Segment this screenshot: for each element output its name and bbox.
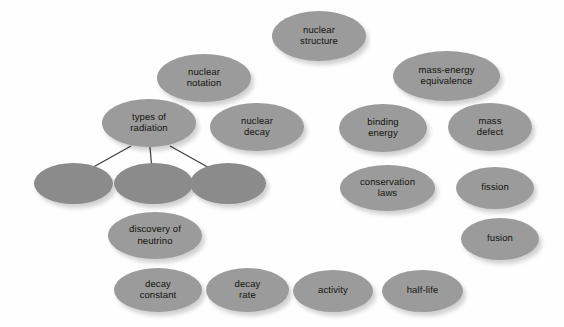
node-label: decay constant	[134, 279, 183, 302]
node-half-life[interactable]: half-life	[382, 270, 463, 312]
node-label: conservation laws	[354, 177, 421, 200]
node-mass-energy-equivalence[interactable]: mass-energy equivalence	[393, 51, 500, 101]
node-radiation-type-3[interactable]	[190, 163, 266, 204]
node-decay-constant[interactable]: decay constant	[114, 268, 202, 312]
node-label: nuclear notation	[181, 67, 228, 90]
node-label: activity	[312, 285, 354, 297]
node-fusion[interactable]: fusion	[461, 218, 539, 260]
node-mass-defect[interactable]: mass defect	[448, 103, 532, 151]
node-label: discovery of neutrino	[123, 224, 187, 247]
node-fission[interactable]: fission	[456, 167, 534, 209]
node-label: nuclear decay	[235, 116, 279, 139]
node-nuclear-decay[interactable]: nuclear decay	[210, 103, 304, 151]
node-label: binding energy	[361, 117, 404, 140]
node-activity[interactable]: activity	[293, 270, 373, 312]
node-types-of-radiation[interactable]: types of radiation	[102, 99, 196, 147]
node-label: mass-energy equivalence	[412, 65, 480, 88]
node-label: mass defect	[471, 116, 509, 139]
node-nuclear-structure[interactable]: nuclear structure	[272, 11, 366, 61]
node-conservation-laws[interactable]: conservation laws	[340, 165, 435, 211]
node-label: fission	[475, 182, 515, 194]
node-label: fusion	[481, 233, 519, 245]
concept-map-canvas: nuclear structurenuclear notationmass-en…	[0, 0, 564, 327]
node-decay-rate[interactable]: decay rate	[206, 268, 289, 312]
node-discovery-of-neutrino[interactable]: discovery of neutrino	[108, 212, 202, 259]
node-radiation-type-1[interactable]	[34, 163, 113, 204]
node-nuclear-notation[interactable]: nuclear notation	[157, 54, 251, 102]
node-radiation-type-2[interactable]	[114, 163, 193, 204]
node-label: decay rate	[229, 279, 267, 302]
node-label: nuclear structure	[294, 25, 344, 48]
node-label: types of radiation	[124, 112, 173, 135]
node-label: half-life	[401, 285, 445, 297]
node-binding-energy[interactable]: binding energy	[339, 104, 427, 152]
